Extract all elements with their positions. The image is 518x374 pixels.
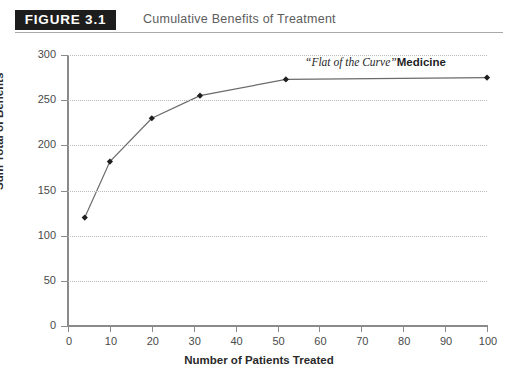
header-divider	[15, 32, 503, 33]
x-axis-tick: 60	[319, 326, 320, 332]
annotation-quoted-text: “Flat of the Curve”	[305, 56, 397, 68]
gridline	[68, 145, 487, 146]
y-axis-tick-label: 50	[44, 274, 56, 286]
series-line	[85, 78, 487, 218]
data-point-marker	[283, 76, 289, 82]
data-point-marker	[484, 74, 490, 80]
y-axis-tick: 250	[61, 100, 68, 101]
figure-number-badge: FIGURE 3.1	[15, 10, 116, 30]
y-axis-tick: 300	[61, 55, 68, 56]
flat-of-the-curve-annotation: “Flat of the Curve”Medicine	[305, 56, 446, 68]
y-axis-tick-label: 100	[38, 229, 56, 241]
y-axis-tick-label: 300	[38, 48, 56, 60]
annotation-emphasis-text: Medicine	[397, 56, 446, 68]
y-axis-tick: 100	[61, 236, 68, 237]
y-axis-tick-label: 200	[38, 138, 56, 150]
x-axis-tick: 40	[236, 326, 237, 332]
y-axis-tick-label: 250	[38, 93, 56, 105]
x-axis-tick: 0	[68, 326, 69, 332]
x-axis-tick-label: 50	[272, 335, 284, 347]
x-axis-tick: 20	[152, 326, 153, 332]
x-axis-tick: 100	[487, 326, 488, 332]
x-axis-tick-label: 40	[230, 335, 242, 347]
x-axis-tick-label: 0	[66, 335, 72, 347]
x-axis-tick-label: 60	[314, 335, 326, 347]
data-point-marker	[82, 215, 88, 221]
x-axis-tick: 90	[445, 326, 446, 332]
gridline	[68, 100, 487, 101]
x-axis-tick-label: 20	[147, 335, 159, 347]
x-axis-tick-label: 100	[479, 335, 497, 347]
gridline	[68, 191, 487, 192]
x-axis-tick-label: 70	[356, 335, 368, 347]
x-axis-tick-label: 80	[398, 335, 410, 347]
y-axis-tick-label: 0	[50, 319, 56, 331]
gridline	[68, 281, 487, 282]
y-axis-tick-label: 150	[38, 184, 56, 196]
y-axis-tick: 0	[61, 326, 68, 327]
y-axis-title: Sum Total of Benefits	[0, 73, 5, 190]
x-axis-tick-label: 30	[189, 335, 201, 347]
x-axis-tick: 10	[110, 326, 111, 332]
y-axis-tick: 50	[61, 281, 68, 282]
x-axis-tick-label: 10	[105, 335, 117, 347]
x-axis-title: Number of Patients Treated	[0, 354, 518, 366]
x-axis-tick-label: 90	[440, 335, 452, 347]
data-point-marker	[197, 93, 203, 99]
figure-caption: Cumulative Benefits of Treatment	[143, 12, 336, 26]
y-axis-tick: 150	[61, 191, 68, 192]
y-axis-tick: 200	[61, 145, 68, 146]
x-axis-tick: 50	[278, 326, 279, 332]
x-axis-tick: 30	[194, 326, 195, 332]
x-axis-tick: 80	[403, 326, 404, 332]
x-axis-tick: 70	[361, 326, 362, 332]
gridline	[68, 236, 487, 237]
line-chart: Sum Total of Benefits Number of Patients…	[0, 34, 518, 374]
plot-area	[68, 55, 487, 326]
